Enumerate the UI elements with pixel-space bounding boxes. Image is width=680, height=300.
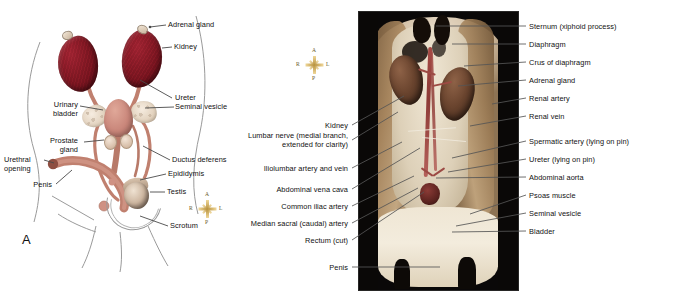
leg-notch-right [458, 257, 476, 289]
label-photo-diaphragm: Diaphragm [529, 40, 566, 49]
panel-a-diagram: Adrenal gland Kidney Ureter Seminal vesi… [0, 0, 340, 300]
label-photo-adrenal-gland: Adrenal gland [529, 76, 575, 85]
compass-right-b: R [296, 61, 300, 67]
label-photo-rectum-cut: Rectum (cut) [190, 236, 348, 245]
label-testis: Testis [167, 187, 186, 196]
label-photo-lumbar-nerve-line2: extended for clarity) [282, 140, 348, 149]
label-adrenal-gland: Adrenal gland [168, 20, 214, 29]
label-prostate-gland: Prostate gland [18, 136, 78, 154]
label-photo-median-sacral-artery: Median sacral (caudal) artery [182, 219, 348, 228]
label-photo-kidney: Kidney [200, 121, 348, 130]
label-ductus-deferens: Ductus deferens [172, 155, 227, 164]
label-kidney: Kidney [174, 42, 197, 51]
label-penis: Penis [16, 180, 52, 189]
label-photo-iliolumbar-artery-and-vein: Iliolumbar artery and vein [190, 164, 348, 173]
label-photo-seminal-vesicle: Seminal vesicle [529, 209, 581, 218]
panel-a-letter: A [22, 232, 31, 247]
label-urinary-bladder-line2: bladder [53, 109, 78, 118]
compass-rose-panel-b: A P R L [297, 48, 331, 82]
label-prostate-gland-line2: gland [60, 145, 78, 154]
label-seminal-vesicle: Seminal vesicle [175, 102, 227, 111]
label-urinary-bladder-line1: Urinary [54, 100, 78, 109]
label-photo-ureter: Ureter (lying on pin) [529, 155, 595, 164]
leg-notch-left [394, 259, 410, 289]
label-photo-abdominal-vena-cava: Abdominal vena cava [190, 185, 348, 194]
label-urethral-opening: Urethral opening [4, 155, 48, 173]
label-urethral-opening-line1: Urethral [4, 155, 31, 164]
label-photo-bladder: Bladder [529, 227, 555, 236]
thoracic-opening-left [413, 17, 431, 43]
panel-b-photograph [358, 11, 519, 291]
label-urethral-opening-line2: opening [4, 164, 31, 173]
label-photo-sternum-xiphoid-process: Sternum (xiphoid process) [529, 22, 617, 31]
label-photo-crus-of-diaphragm: Crus of diaphragm [529, 58, 591, 67]
label-prostate-gland-line1: Prostate [50, 136, 78, 145]
label-photo-lumbar-nerve-line1: Lumbar nerve (medial branch, [248, 131, 348, 140]
label-photo-psoas-muscle: Psoas muscle [529, 191, 576, 200]
photo-right-margin [498, 11, 519, 291]
label-photo-renal-artery: Renal artery [529, 94, 570, 103]
label-urinary-bladder: Urinary bladder [16, 100, 78, 118]
label-photo-spermatic-artery: Spermatic artery (lying on pin) [529, 137, 629, 146]
compass-anterior-b: A [312, 47, 316, 53]
compass-posterior-b: P [312, 75, 315, 81]
diaphragm-shadow-right [432, 39, 446, 57]
photo-left-margin [358, 11, 378, 291]
label-photo-renal-vein: Renal vein [529, 112, 564, 121]
label-photo-common-iliac-artery: Common iliac artery [190, 202, 348, 211]
label-photo-abdominal-aorta: Abdominal aorta [529, 173, 584, 182]
label-photo-penis: Penis [190, 263, 348, 272]
anatomy-figure: Adrenal gland Kidney Ureter Seminal vesi… [0, 0, 680, 300]
compass-left-b: L [326, 61, 329, 67]
label-photo-lumbar-nerve: Lumbar nerve (medial branch, extended fo… [190, 131, 348, 149]
label-ureter: Ureter [175, 93, 196, 102]
